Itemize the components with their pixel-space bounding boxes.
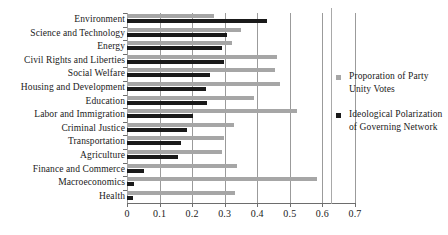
chart-row: Finance and Commerce xyxy=(0,163,448,177)
bar-ideological-polarization xyxy=(127,87,206,91)
legend-item-ideological-polarization: Ideological Polarization of Governing Ne… xyxy=(336,108,448,133)
bar-party-unity xyxy=(127,68,275,72)
category-label-social-welfare: Social Welfare xyxy=(0,68,125,79)
bar-ideological-polarization xyxy=(127,182,134,186)
bar-ideological-polarization xyxy=(127,169,144,173)
x-tick-mark xyxy=(160,203,161,207)
bar-ideological-polarization xyxy=(127,128,187,132)
bar-party-unity xyxy=(127,191,235,195)
bar-party-unity xyxy=(127,123,234,127)
bar-party-unity xyxy=(127,82,280,86)
category-label-health: Health xyxy=(0,191,125,202)
category-label-civil-rights-and-liberties: Civil Rights and Liberties xyxy=(0,55,125,66)
category-label-energy: Energy xyxy=(0,41,125,52)
bar-ideological-polarization xyxy=(127,114,193,118)
x-tick-mark xyxy=(127,203,128,207)
chart-row: Agriculture xyxy=(0,149,448,163)
category-label-education: Education xyxy=(0,96,125,107)
bar-ideological-polarization xyxy=(127,19,267,23)
x-tick-label-0.1: 0.1 xyxy=(145,208,175,220)
bar-ideological-polarization xyxy=(127,46,222,50)
category-label-science-and-technology: Science and Technology xyxy=(0,28,125,39)
x-tick-label-0.5: 0.5 xyxy=(275,208,305,220)
bar-party-unity xyxy=(127,136,224,140)
x-tick-label-0.3: 0.3 xyxy=(210,208,240,220)
x-tick-mark xyxy=(225,203,226,207)
category-label-housing-and-development: Housing and Development xyxy=(0,82,125,93)
bar-ideological-polarization xyxy=(127,155,178,159)
bar-party-unity xyxy=(127,150,222,154)
x-tick-label-0.6: 0.6 xyxy=(307,208,337,220)
x-tick-mark xyxy=(257,203,258,207)
chart-row: Science and Technology xyxy=(0,27,448,41)
category-label-transportation: Transportation xyxy=(0,136,125,147)
chart-row: Environment xyxy=(0,13,448,27)
legend-label-ideological-polarization: Ideological Polarization of Governing Ne… xyxy=(349,108,448,133)
bar-ideological-polarization xyxy=(127,60,224,64)
horizontal-bar-chart: 00.10.20.30.40.50.60.7 EnvironmentScienc… xyxy=(0,0,448,235)
category-label-labor-and-immigration: Labor and Immigration xyxy=(0,109,125,120)
bar-party-unity xyxy=(127,41,232,45)
bar-party-unity xyxy=(127,55,277,59)
x-tick-label-0.7: 0.7 xyxy=(340,208,370,220)
chart-row: Civil Rights and Liberties xyxy=(0,54,448,68)
bar-party-unity xyxy=(127,164,237,168)
legend-divider xyxy=(331,8,332,204)
x-tick-label-0.2: 0.2 xyxy=(177,208,207,220)
chart-row: Macroeconomics xyxy=(0,176,448,190)
bar-party-unity xyxy=(127,96,254,100)
category-label-criminal-justice: Criminal Justice xyxy=(0,123,125,134)
chart-row: Health xyxy=(0,190,448,204)
bar-ideological-polarization xyxy=(127,73,210,77)
bar-ideological-polarization xyxy=(127,33,227,37)
legend-swatch-icon-gray xyxy=(336,75,341,80)
chart-legend: Proporation of Party Unity Votes Ideolog… xyxy=(336,70,448,146)
bar-party-unity xyxy=(127,28,241,32)
x-tick-mark xyxy=(355,203,356,207)
category-label-environment: Environment xyxy=(0,14,125,25)
x-tick-label-0: 0 xyxy=(112,208,142,220)
legend-label-party-unity: Proporation of Party Unity Votes xyxy=(349,70,448,95)
legend-item-party-unity: Proporation of Party Unity Votes xyxy=(336,70,448,95)
bar-party-unity xyxy=(127,109,297,113)
x-tick-mark xyxy=(290,203,291,207)
chart-row: Energy xyxy=(0,40,448,54)
category-label-finance-and-commerce: Finance and Commerce xyxy=(0,164,125,175)
x-tick-mark xyxy=(192,203,193,207)
bar-ideological-polarization xyxy=(127,196,133,200)
category-label-agriculture: Agriculture xyxy=(0,150,125,161)
x-tick-label-0.4: 0.4 xyxy=(242,208,272,220)
legend-swatch-icon-black xyxy=(336,113,341,118)
bar-party-unity xyxy=(127,14,214,18)
bar-ideological-polarization xyxy=(127,101,207,105)
bar-ideological-polarization xyxy=(127,141,181,145)
bar-party-unity xyxy=(127,177,317,181)
x-tick-mark xyxy=(322,203,323,207)
category-label-macroeconomics: Macroeconomics xyxy=(0,177,125,188)
